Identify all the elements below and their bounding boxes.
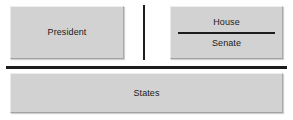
diagram-canvas: President House Senate States [0,0,293,120]
congress-box[interactable]: House Senate [170,6,283,59]
house-row: House [171,15,282,30]
house-label: House [213,17,240,28]
branch-divider-vertical-rule [143,5,145,60]
president-label: President [48,27,87,38]
senate-row: Senate [171,36,282,51]
states-box[interactable]: States [10,73,283,113]
president-box[interactable]: President [10,6,124,59]
states-label: States [133,88,159,99]
senate-label: Senate [212,38,241,49]
federal-state-divider-thick-horizontal-rule [6,66,287,69]
chamber-divider-horizontal-rule [178,32,275,34]
